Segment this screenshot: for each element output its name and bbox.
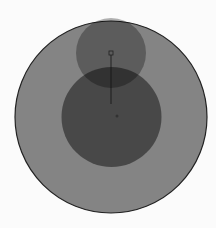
circles-diagram xyxy=(0,0,216,228)
middle-circle xyxy=(62,67,162,167)
center-dot xyxy=(116,115,119,118)
